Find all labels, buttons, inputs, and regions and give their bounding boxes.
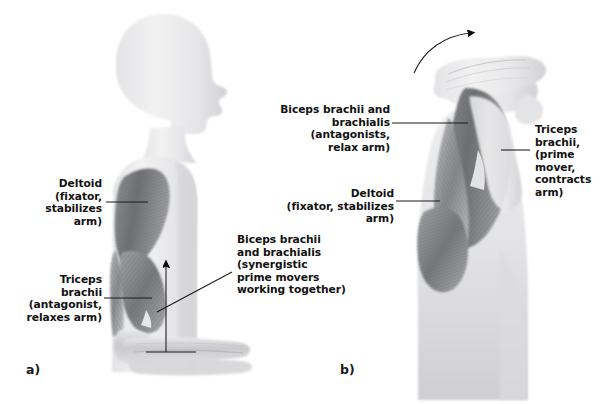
annotation-deltoid-b: Deltoid (fixator, stabilizes arm) [262, 188, 394, 226]
panel-a-artwork [104, 14, 252, 376]
annotation-deltoid-a: Deltoid (fixator, stabilizes arm) [14, 178, 102, 228]
anatomy-figure: Deltoid (fixator, stabilizes arm) Tricep… [0, 0, 613, 404]
panel-label-a: a) [26, 362, 40, 377]
panel-b-artwork [392, 33, 546, 400]
annotation-triceps-a: Triceps brachii (antagonist, relaxes arm… [2, 274, 102, 324]
annotation-biceps-a: Biceps brachii and brachialis (synergist… [237, 234, 357, 297]
panel-label-b: b) [340, 362, 355, 377]
forearm-a [121, 337, 252, 375]
annotation-biceps-b: Biceps brachii and brachialis (antagonis… [254, 104, 390, 154]
annotation-triceps-b: Triceps brachii, (prime mover, contracts… [535, 124, 611, 200]
deltoid-muscle-b [417, 207, 468, 292]
